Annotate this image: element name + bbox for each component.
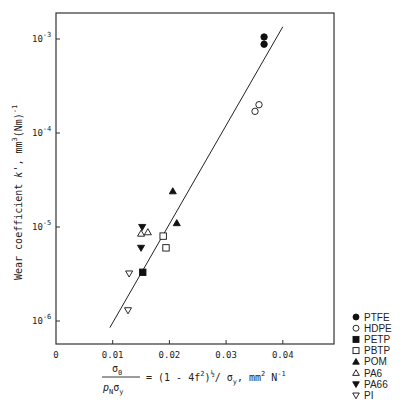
data-point-pbtp: [160, 233, 166, 239]
x-label-denominator: pNσy: [102, 382, 124, 396]
legend-marker-hdpe: [353, 325, 359, 331]
data-point-pi: [124, 308, 131, 314]
x-axis-label: σ0 pNσy = (1 - 4f2)½/ σy, mm2 N-1: [102, 363, 286, 396]
legend-label-pom: POM: [364, 356, 387, 367]
data-point-pa66: [138, 245, 145, 251]
x-tick-label: 0: [53, 350, 58, 360]
data-point-pbtp: [163, 245, 169, 251]
y-axis-label-units: ', mm: [13, 142, 24, 172]
data-point-ptfe: [261, 41, 267, 47]
wear-chart: 00.010.020.030.04 10-310-410-510-6 PTFEH…: [0, 0, 407, 405]
y-tick-label: 10-4: [32, 125, 51, 138]
legend-marker-pa6: [353, 370, 360, 376]
legend-label-hdpe: HDPE: [364, 323, 392, 334]
y-axis-label-main: Wear coefficient: [13, 178, 24, 280]
data-point-pa6: [144, 229, 151, 235]
data-point-hdpe: [256, 102, 262, 108]
legend: PTFEHDPEPETPPBTPPOMPA6PA66PI: [353, 312, 392, 401]
y-axis-label-sup-neg1: -1: [11, 105, 19, 113]
plot-frame: [56, 13, 334, 344]
y-tick-label: 10-6: [32, 313, 51, 326]
legend-label-petp: PETP: [364, 334, 390, 345]
x-tick-label: 0.02: [159, 350, 181, 360]
x-label-numerator: σ0: [112, 363, 122, 377]
data-points: [124, 34, 267, 314]
legend-marker-pa66: [353, 382, 360, 388]
data-point-pa66: [139, 224, 146, 230]
x-tick-label: 0.04: [272, 350, 294, 360]
x-tick-label: 0.01: [102, 350, 124, 360]
legend-label-pa6: PA6: [364, 368, 383, 379]
x-tick-label: 0.03: [215, 350, 237, 360]
legend-label-pa66: PA66: [364, 379, 388, 390]
y-tick-label: 10-5: [32, 219, 51, 232]
x-label-rhs: = (1 - 4f2)½/ σy, mm2 N-1: [146, 370, 286, 386]
legend-label-ptfe: PTFE: [364, 312, 390, 323]
fit-line-group: [110, 27, 283, 328]
data-point-pom: [173, 220, 180, 226]
legend-marker-ptfe: [353, 314, 359, 320]
legend-marker-pbtp: [353, 348, 359, 354]
data-point-hdpe: [252, 108, 258, 114]
legend-marker-petp: [353, 336, 359, 342]
legend-label-pi: PI: [364, 390, 373, 401]
legend-marker-pi: [353, 393, 360, 399]
legend-marker-pom: [353, 359, 360, 365]
data-point-petp: [140, 269, 146, 275]
fit-line: [110, 27, 283, 328]
data-point-pom: [169, 188, 176, 194]
y-axis-label: Wear coefficient k', mm3(Nm)-1: [11, 105, 24, 280]
data-point-pa6: [138, 230, 145, 236]
y-tick-label: 10-3: [32, 31, 51, 44]
legend-label-pbtp: PBTP: [364, 345, 390, 356]
data-point-pi: [126, 271, 133, 277]
y-axis-label-nm: (Nm): [13, 113, 24, 137]
data-point-ptfe: [261, 34, 267, 40]
x-axis-ticks: 00.010.020.030.04: [53, 340, 293, 360]
